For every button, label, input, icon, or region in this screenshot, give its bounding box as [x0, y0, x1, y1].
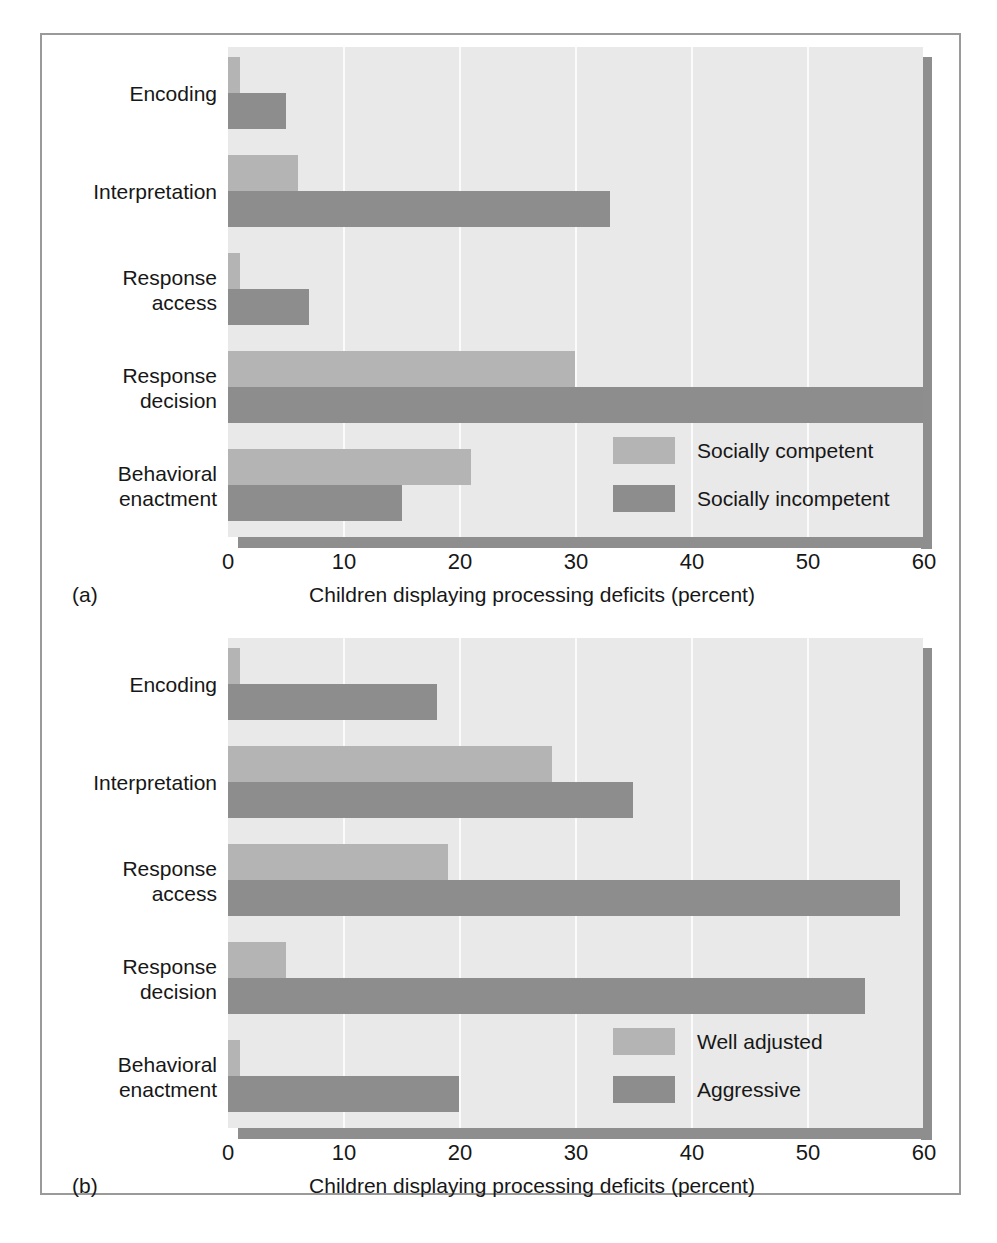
xtick-b-40: 40	[662, 1140, 722, 1166]
legend-label-socially-incompetent: Socially incompetent	[697, 487, 890, 511]
bar-b-response-decision-light	[228, 942, 286, 978]
category-label-a-behavioral-enactment: Behavioral enactment	[62, 461, 217, 511]
xtick-a-50: 50	[778, 549, 838, 575]
axis-title-b: Children displaying processing deficits …	[182, 1174, 882, 1198]
chart-panel-b: Well adjusted Aggressive Encoding Interp…	[42, 630, 959, 1195]
bar-b-interpretation-dark	[228, 782, 633, 818]
legend-item-b-0: Well adjusted	[613, 1028, 823, 1055]
bar-a-interpretation-light	[228, 155, 298, 191]
xtick-a-0: 0	[198, 549, 258, 575]
bar-b-behavioral-enactment-dark	[228, 1076, 459, 1112]
bar-a-behavioral-enactment-light	[228, 449, 471, 485]
category-label-a-interpretation: Interpretation	[62, 179, 217, 204]
legend-b: Well adjusted Aggressive	[613, 1028, 913, 1118]
bar-a-encoding-light	[228, 57, 240, 93]
chart-panel-a: Socially competent Socially incompetent …	[42, 35, 959, 610]
xtick-b-10: 10	[314, 1140, 374, 1166]
plot-shadow-bottom-a	[238, 537, 932, 548]
category-label-b-encoding: Encoding	[62, 672, 217, 697]
category-label-b-interpretation: Interpretation	[62, 770, 217, 795]
bar-b-interpretation-light	[228, 746, 552, 782]
bar-a-behavioral-enactment-dark	[228, 485, 402, 521]
category-label-a-encoding: Encoding	[62, 81, 217, 106]
xtick-b-30: 30	[546, 1140, 606, 1166]
xtick-a-30: 30	[546, 549, 606, 575]
legend-a: Socially competent Socially incompetent	[613, 437, 913, 527]
plot-wrap-a: Socially competent Socially incompetent	[228, 47, 928, 537]
bar-b-behavioral-enactment-light	[228, 1040, 240, 1076]
legend-item-b-1: Aggressive	[613, 1076, 801, 1103]
gridline-30	[575, 47, 577, 537]
category-label-b-response-decision: Response decision	[62, 954, 217, 1004]
bar-b-response-decision-dark	[228, 978, 865, 1014]
bar-a-response-access-light	[228, 253, 240, 289]
bar-a-encoding-dark	[228, 93, 286, 129]
xtick-a-20: 20	[430, 549, 490, 575]
xtick-b-0: 0	[198, 1140, 258, 1166]
bar-b-encoding-light	[228, 648, 240, 684]
axis-title-a: Children displaying processing deficits …	[182, 583, 882, 607]
plot-shadow-bottom-b	[238, 1128, 932, 1139]
bar-b-response-access-light	[228, 844, 448, 880]
xtick-b-60: 60	[894, 1140, 954, 1166]
legend-label-well-adjusted: Well adjusted	[697, 1030, 823, 1054]
legend-swatch-socially-competent	[613, 437, 675, 464]
legend-swatch-aggressive	[613, 1076, 675, 1103]
legend-item-a-1: Socially incompetent	[613, 485, 890, 512]
panel-letter-b: (b)	[72, 1174, 98, 1198]
category-label-a-response-access: Response access	[62, 265, 217, 315]
bar-b-response-access-dark	[228, 880, 900, 916]
bar-a-response-decision-light	[228, 351, 575, 387]
legend-label-aggressive: Aggressive	[697, 1078, 801, 1102]
figure-frame: Socially competent Socially incompetent …	[40, 33, 961, 1195]
category-label-a-response-decision: Response decision	[62, 363, 217, 413]
xtick-b-20: 20	[430, 1140, 490, 1166]
xtick-b-50: 50	[778, 1140, 838, 1166]
category-label-b-behavioral-enactment: Behavioral enactment	[62, 1052, 217, 1102]
category-label-b-response-access: Response access	[62, 856, 217, 906]
xtick-a-40: 40	[662, 549, 722, 575]
panel-letter-a: (a)	[72, 583, 98, 607]
legend-label-socially-competent: Socially competent	[697, 439, 873, 463]
bar-a-response-access-dark	[228, 289, 309, 325]
legend-swatch-well-adjusted	[613, 1028, 675, 1055]
plot-area-b: Well adjusted Aggressive	[228, 638, 923, 1128]
plot-area-a: Socially competent Socially incompetent	[228, 47, 923, 537]
plot-wrap-b: Well adjusted Aggressive	[228, 638, 928, 1128]
bar-b-encoding-dark	[228, 684, 437, 720]
xtick-a-10: 10	[314, 549, 374, 575]
bar-a-interpretation-dark	[228, 191, 610, 227]
legend-swatch-socially-incompetent	[613, 485, 675, 512]
bar-a-response-decision-dark	[228, 387, 923, 423]
xtick-a-60: 60	[894, 549, 954, 575]
legend-item-a-0: Socially competent	[613, 437, 873, 464]
